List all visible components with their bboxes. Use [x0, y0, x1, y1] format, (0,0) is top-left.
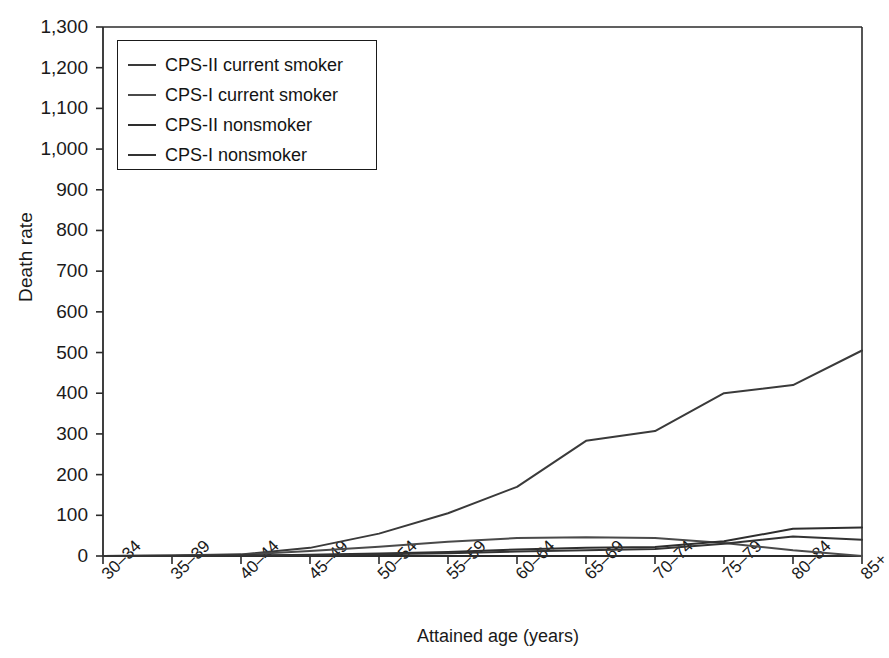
legend-swatch-line-icon [128, 154, 156, 156]
legend: CPS-II current smokerCPS-I current smoke… [117, 40, 377, 170]
legend-item-label: CPS-I current smoker [165, 85, 338, 106]
legend-item: CPS-II nonsmoker [128, 110, 366, 140]
legend-item: CPS-I nonsmoker [128, 140, 366, 170]
legend-item-label: CPS-I nonsmoker [165, 145, 307, 166]
legend-swatch-line-icon [128, 64, 156, 66]
legend-item: CPS-II current smoker [128, 50, 366, 80]
legend-item: CPS-I current smoker [128, 80, 366, 110]
series-line-cps-ii-current-smoker [103, 351, 862, 556]
legend-item-label: CPS-II nonsmoker [165, 115, 312, 136]
legend-swatch-line-icon [128, 94, 156, 96]
legend-swatch-line-icon [128, 124, 156, 126]
legend-item-label: CPS-II current smoker [165, 55, 343, 76]
